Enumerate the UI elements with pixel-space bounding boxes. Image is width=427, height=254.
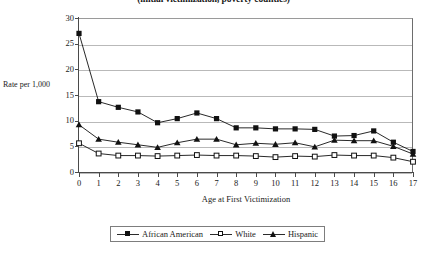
x-tick-mark — [256, 173, 257, 177]
x-tick-label: 3 — [128, 179, 148, 188]
data-point — [273, 155, 278, 160]
x-tick-label: 4 — [148, 179, 168, 188]
data-point — [194, 110, 199, 115]
x-tick-mark — [374, 173, 375, 177]
data-point — [371, 153, 376, 158]
legend-label: African American — [142, 229, 203, 239]
x-tick-label: 14 — [344, 179, 364, 188]
y-tick-mark — [75, 44, 79, 45]
x-tick-mark — [158, 173, 159, 177]
x-tick-label: 5 — [167, 179, 187, 188]
data-point — [194, 153, 199, 158]
data-point — [234, 153, 239, 158]
x-tick-mark — [315, 173, 316, 177]
series-line — [79, 143, 413, 161]
data-point — [214, 153, 219, 158]
data-point — [175, 116, 180, 121]
x-tick-mark — [197, 173, 198, 177]
y-tick-mark — [75, 121, 79, 122]
data-point — [351, 133, 356, 138]
x-tick-label: 7 — [207, 179, 227, 188]
series-african-american — [76, 31, 415, 154]
data-point — [253, 154, 258, 159]
data-point — [96, 151, 101, 156]
x-tick-label: 13 — [324, 179, 344, 188]
x-tick-mark — [275, 173, 276, 177]
chart-legend: African American White Hispanic — [110, 226, 325, 242]
data-point — [411, 159, 416, 164]
x-tick-label: 2 — [108, 179, 128, 188]
chart-figure: (initial victimization, poverty counties… — [0, 0, 427, 254]
data-point — [312, 127, 317, 132]
data-point — [155, 154, 160, 159]
y-tick-mark — [75, 69, 79, 70]
data-point — [116, 153, 121, 158]
y-tick-mark — [75, 18, 79, 19]
series-line — [79, 125, 413, 154]
legend-marker-filled-square-icon — [117, 229, 139, 239]
data-point — [96, 99, 101, 104]
data-point — [293, 126, 298, 131]
data-point — [136, 153, 141, 158]
x-tick-mark — [295, 173, 296, 177]
x-tick-mark — [99, 173, 100, 177]
x-tick-label: 9 — [246, 179, 266, 188]
x-tick-mark — [354, 173, 355, 177]
x-tick-label: 0 — [69, 179, 89, 188]
x-tick-mark — [118, 173, 119, 177]
x-tick-label: 16 — [383, 179, 403, 188]
data-point — [175, 153, 180, 158]
legend-marker-open-square-icon — [210, 229, 232, 239]
legend-item-white[interactable]: White — [210, 229, 256, 239]
x-tick-mark — [79, 173, 80, 177]
series-layer — [0, 0, 427, 254]
x-tick-label: 8 — [226, 179, 246, 188]
data-point — [332, 153, 337, 158]
data-point — [371, 128, 376, 133]
data-point — [77, 141, 82, 146]
data-point — [155, 120, 160, 125]
x-tick-label: 10 — [265, 179, 285, 188]
x-tick-mark — [334, 173, 335, 177]
x-tick-label: 6 — [187, 179, 207, 188]
x-tick-mark — [413, 173, 414, 177]
x-tick-mark — [236, 173, 237, 177]
x-tick-mark — [393, 173, 394, 177]
x-tick-label: 1 — [89, 179, 109, 188]
x-tick-mark — [177, 173, 178, 177]
x-tick-label: 17 — [403, 179, 423, 188]
data-point — [135, 109, 140, 114]
x-axis-title: Age at First Victimization — [79, 194, 413, 204]
x-tick-mark — [217, 173, 218, 177]
legend-label: White — [235, 229, 256, 239]
data-point — [312, 154, 317, 159]
x-tick-label: 15 — [364, 179, 384, 188]
data-point — [214, 116, 219, 121]
data-point — [76, 122, 83, 128]
x-tick-label: 11 — [285, 179, 305, 188]
data-point — [273, 126, 278, 131]
legend-item-african-american[interactable]: African American — [117, 229, 203, 239]
x-tick-mark — [138, 173, 139, 177]
data-point — [293, 154, 298, 159]
y-tick-mark — [75, 95, 79, 96]
data-point — [95, 136, 102, 142]
series-hispanic — [76, 122, 417, 157]
data-point — [391, 155, 396, 160]
data-point — [253, 125, 258, 130]
y-tick-mark — [75, 146, 79, 147]
legend-marker-filled-triangle-icon — [263, 229, 285, 239]
legend-label: Hispanic — [288, 229, 318, 239]
data-point — [76, 31, 81, 36]
data-point — [352, 153, 357, 158]
data-point — [234, 125, 239, 130]
x-tick-label: 12 — [305, 179, 325, 188]
data-point — [116, 105, 121, 110]
series-line — [79, 33, 413, 151]
legend-item-hispanic[interactable]: Hispanic — [263, 229, 318, 239]
data-point — [292, 140, 299, 146]
